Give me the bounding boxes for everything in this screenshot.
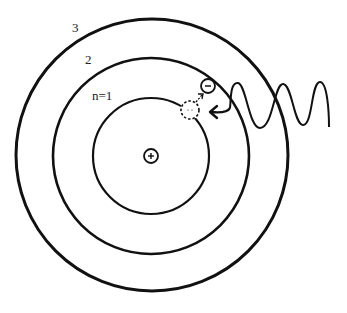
- bohr-model-diagram: 3 2 n=1: [0, 0, 347, 313]
- orbit-label-n1: n=1: [92, 88, 112, 103]
- electron-former-position: [181, 101, 199, 119]
- electron: [201, 79, 215, 93]
- nucleus: [144, 149, 158, 163]
- orbit-label-n2: 2: [85, 52, 92, 67]
- orbit-label-n3: 3: [72, 20, 79, 35]
- transition-arrow-icon: [196, 94, 203, 102]
